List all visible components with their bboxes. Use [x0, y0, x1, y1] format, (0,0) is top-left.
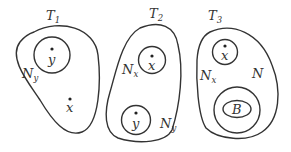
- label-n: N: [251, 66, 264, 81]
- title-t3: T3: [208, 8, 222, 25]
- title-t2: T2: [149, 6, 163, 23]
- panel-t2: T2 x Nx y Ny: [106, 6, 181, 142]
- label-ny: Ny: [21, 66, 38, 83]
- title-t1: T1: [46, 8, 60, 25]
- topology-diagram: T1 y Ny x T2 x Nx y Ny T3 x Nx N B: [0, 0, 291, 152]
- label-nx: Nx: [121, 62, 138, 79]
- label-ny: Ny: [159, 116, 176, 133]
- label-x: x: [66, 100, 74, 115]
- label-x: x: [221, 48, 229, 63]
- label-b: B: [231, 102, 242, 117]
- label-x: x: [148, 58, 156, 73]
- label-nx: Nx: [199, 68, 216, 85]
- label-y: y: [131, 116, 140, 131]
- label-y: y: [47, 52, 56, 67]
- panel-t3: T3 x Nx N B: [197, 8, 278, 138]
- point-y-dot: [50, 47, 53, 50]
- point-y-dot: [134, 111, 137, 114]
- panel-t1: T1 y Ny x: [16, 8, 99, 133]
- space-t3-boundary: [197, 28, 278, 138]
